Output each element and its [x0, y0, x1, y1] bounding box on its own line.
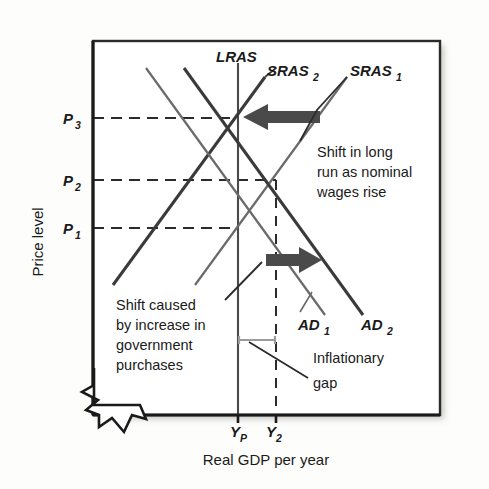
annotation-shift-government-line-2: by increase in	[116, 317, 205, 333]
x-axis-title: Real GDP per year	[203, 451, 329, 468]
annotation-shift-government-line-3: government	[116, 337, 193, 353]
annotation-shift-long-run-line-2: run as nominal	[317, 164, 412, 180]
annotation-shift-long-run-line-3: wages rise	[316, 184, 386, 200]
x-tick-label-y2: Y 2	[266, 423, 282, 444]
y-tick-p1-base: P	[63, 220, 74, 237]
curve-label-sras1-sub: 1	[396, 71, 402, 83]
curve-label-sras2-base: SRAS	[267, 62, 309, 79]
curve-label-ad1-sub: 1	[324, 325, 330, 337]
x-tick-yp-sub: P	[240, 432, 248, 444]
curve-label-sras2-sub: 2	[312, 71, 319, 83]
curve-label-sras1-base: SRAS	[350, 62, 392, 79]
curve-label-ad1-base: AD	[297, 316, 320, 333]
aggregate-supply-demand-diagram: Price level Real GDP per year P 3 P 2 P …	[0, 0, 489, 489]
annotation-inflationary-gap-line-2: gap	[313, 375, 337, 391]
y-tick-label-p3: P 3	[63, 110, 81, 131]
y-tick-label-p2: P 2	[63, 172, 81, 193]
annotation-inflationary-gap-line-1: Inflationary	[313, 350, 385, 366]
y-axis-title: Price level	[29, 207, 46, 276]
annotation-shift-government-line-4: purchases	[116, 357, 183, 373]
y-tick-p3-sub: 3	[75, 119, 81, 131]
x-tick-label-yp: Y P	[230, 423, 248, 444]
y-tick-p1-sub: 1	[75, 229, 81, 241]
y-tick-p2-base: P	[63, 172, 74, 189]
curve-label-lras: LRAS	[216, 48, 257, 65]
curve-label-ad2-sub: 2	[386, 325, 393, 337]
y-tick-p2-sub: 2	[74, 181, 81, 193]
annotation-shift-long-run-line-1: Shift in long	[317, 144, 393, 160]
curve-label-lras-base: LRAS	[216, 48, 257, 65]
y-tick-p3-base: P	[63, 110, 74, 127]
curve-label-ad2-base: AD	[360, 316, 383, 333]
figure-canvas: Price level Real GDP per year P 3 P 2 P …	[0, 0, 489, 489]
annotation-shift-government-line-1: Shift caused	[116, 297, 196, 313]
x-tick-y2-sub: 2	[275, 432, 282, 444]
y-tick-label-p1: P 1	[63, 220, 81, 241]
